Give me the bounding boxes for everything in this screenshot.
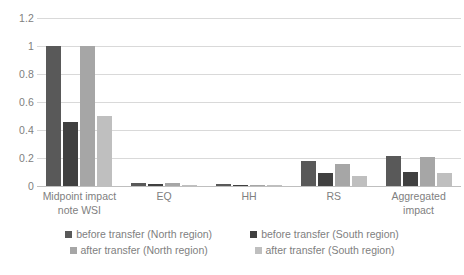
legend-swatch-icon — [65, 231, 72, 238]
x-tick-label: Aggregatedimpact — [376, 189, 461, 217]
bar-group — [122, 14, 207, 186]
y-tick-label: 0 — [0, 181, 34, 192]
bar-chart: 00.20.40.60.811.2 Midpoint impactnote WS… — [0, 0, 464, 275]
y-tick-label: 0.8 — [0, 69, 34, 80]
bar-group — [207, 14, 292, 186]
legend-item-before-south[interactable]: before transfer (South region) — [250, 228, 399, 241]
bar[interactable] — [437, 173, 452, 186]
bar[interactable] — [250, 185, 265, 186]
x-tick-label: Midpoint impactnote WSI — [37, 189, 122, 217]
legend-swatch-icon — [250, 231, 257, 238]
y-tick-label: 1.2 — [0, 13, 34, 24]
legend-label: before transfer (North region) — [76, 228, 212, 241]
legend-label: after transfer (South region) — [266, 244, 395, 257]
bar[interactable] — [216, 184, 231, 186]
legend-label: after transfer (North region) — [81, 244, 208, 257]
x-tick-label: EQ — [122, 189, 207, 203]
chart-legend: before transfer (North region) before tr… — [0, 228, 464, 272]
x-tick-label-line: HH — [207, 189, 292, 203]
bar[interactable] — [165, 183, 180, 186]
x-tick-label-line: RS — [291, 189, 376, 203]
bar[interactable] — [63, 122, 78, 186]
x-tick-label-line: impact — [376, 203, 461, 217]
bar-group — [37, 14, 122, 186]
bar[interactable] — [318, 173, 333, 186]
legend-item-after-south[interactable]: after transfer (South region) — [255, 244, 395, 257]
legend-row: before transfer (North region) before tr… — [65, 228, 399, 241]
x-tick-label-line: note WSI — [37, 203, 122, 217]
y-tick-label: 0.6 — [0, 97, 34, 108]
legend-swatch-icon — [255, 247, 262, 254]
y-axis: 00.20.40.60.811.2 — [0, 0, 34, 200]
x-tick-label-line: Midpoint impact — [37, 189, 122, 203]
y-tick-label: 0.2 — [0, 153, 34, 164]
bars-layer — [37, 0, 461, 200]
bar[interactable] — [420, 157, 435, 186]
bar[interactable] — [352, 176, 367, 187]
x-tick-label: HH — [207, 189, 292, 203]
bar-group — [291, 14, 376, 186]
bar[interactable] — [233, 185, 248, 186]
bar[interactable] — [148, 184, 163, 186]
x-tick-label-line: Aggregated — [376, 189, 461, 203]
bar[interactable] — [335, 164, 350, 186]
legend-item-before-north[interactable]: before transfer (North region) — [65, 228, 250, 241]
bar[interactable] — [97, 116, 112, 186]
plot-area: 00.20.40.60.811.2 — [0, 0, 464, 200]
bar[interactable] — [131, 183, 146, 186]
legend-swatch-icon — [70, 247, 77, 254]
x-axis-category-labels: Midpoint impactnote WSIEQHHRSAggregatedi… — [37, 189, 461, 231]
bar[interactable] — [80, 46, 95, 186]
y-tick-label: 1 — [0, 41, 34, 52]
bar[interactable] — [267, 185, 282, 186]
x-tick-label-line: EQ — [122, 189, 207, 203]
bar[interactable] — [46, 46, 61, 186]
bar[interactable] — [386, 156, 401, 186]
legend-row: after transfer (North region) after tran… — [70, 244, 395, 257]
bar-group — [376, 14, 461, 186]
bar[interactable] — [301, 161, 316, 186]
bar[interactable] — [182, 185, 197, 186]
y-tick-label: 0.4 — [0, 125, 34, 136]
legend-item-after-north[interactable]: after transfer (North region) — [70, 244, 255, 257]
bar[interactable] — [403, 172, 418, 186]
x-tick-label: RS — [291, 189, 376, 203]
legend-label: before transfer (South region) — [261, 228, 399, 241]
